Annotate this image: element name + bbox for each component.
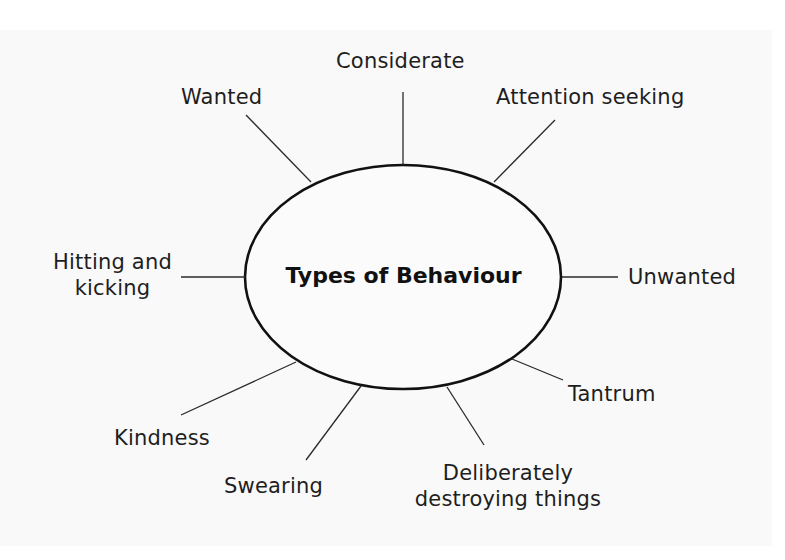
connector-swearing bbox=[306, 386, 361, 460]
label-wanted: Wanted bbox=[181, 84, 262, 110]
label-swearing: Swearing bbox=[224, 473, 323, 499]
connector-attention-seeking bbox=[494, 120, 555, 182]
label-tantrum: Tantrum bbox=[568, 381, 656, 407]
connector-deliberately-destroying bbox=[447, 387, 484, 445]
diagram-title: Types of Behaviour bbox=[245, 262, 562, 290]
label-deliberately-destroying-things: Deliberately destroying things bbox=[408, 460, 608, 512]
label-deliberately-line-2: destroying things bbox=[408, 486, 608, 512]
label-hitting-and-kicking: Hitting and kicking bbox=[45, 249, 180, 301]
label-unwanted: Unwanted bbox=[628, 264, 736, 290]
label-deliberately-line-1: Deliberately bbox=[408, 460, 608, 486]
connector-wanted bbox=[246, 115, 311, 182]
label-hitting-line-1: Hitting and bbox=[45, 249, 180, 275]
label-considerate: Considerate bbox=[336, 48, 465, 74]
connector-kindness bbox=[181, 362, 296, 415]
connector-tantrum bbox=[512, 359, 563, 380]
label-kindness: Kindness bbox=[114, 425, 210, 451]
label-attention-seeking: Attention seeking bbox=[496, 84, 684, 110]
label-hitting-line-2: kicking bbox=[45, 275, 180, 301]
